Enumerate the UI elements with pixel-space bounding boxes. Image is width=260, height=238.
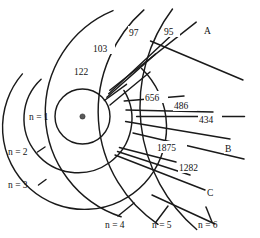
shell-label-n6: n = 6 bbox=[198, 220, 218, 230]
orbit-arc-n6 bbox=[140, 9, 197, 230]
leader-line-n4 bbox=[118, 203, 134, 216]
bohr-diagram-svg: 122 103 97 95 656 486 434 1875 1282 A B … bbox=[0, 0, 260, 238]
wavelength-label-95: 95 bbox=[164, 27, 174, 37]
wavelength-label-434: 434 bbox=[199, 115, 214, 125]
nucleus-dot bbox=[80, 114, 85, 119]
transition-line-486 bbox=[126, 110, 213, 112]
series-label-A: A bbox=[204, 26, 211, 36]
shell-label-n5: n = 5 bbox=[152, 220, 172, 230]
shell-label-n1: n = 1 bbox=[29, 112, 49, 122]
leader-line-n2 bbox=[38, 147, 46, 152]
wavelength-label-103: 103 bbox=[93, 44, 108, 54]
wavelength-label-97: 97 bbox=[129, 28, 139, 38]
series-boundary-A bbox=[151, 41, 244, 80]
bohr-diagram-canvas: 122 103 97 95 656 486 434 1875 1282 A B … bbox=[0, 0, 260, 238]
series-label-B: B bbox=[225, 144, 231, 154]
wavelength-label-656: 656 bbox=[145, 93, 160, 103]
series-label-C: C bbox=[207, 188, 213, 198]
wavelength-label-1875: 1875 bbox=[157, 143, 176, 153]
shell-label-n4: n = 4 bbox=[105, 220, 125, 230]
leader-line-n3 bbox=[39, 180, 47, 186]
shell-label-n3: n = 3 bbox=[8, 180, 28, 190]
wavelength-label-486: 486 bbox=[174, 101, 189, 111]
shell-label-n2: n = 2 bbox=[8, 147, 28, 157]
wavelength-label-1282: 1282 bbox=[179, 163, 198, 173]
wavelength-label-122: 122 bbox=[74, 67, 89, 77]
